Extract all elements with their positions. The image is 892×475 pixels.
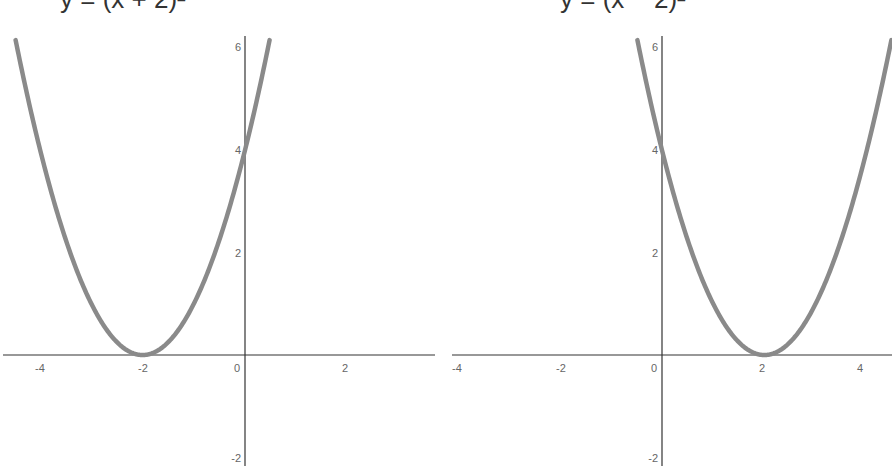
left-x-tick-label: -4 [35,362,45,374]
right-parabola-curve [637,40,891,355]
right-origin-label: 0 [651,362,657,374]
right-x-tick-label: -4 [452,362,462,374]
right-x-tick-label: 4 [857,362,863,374]
left-y-tick-label: 2 [235,247,241,259]
left-origin-label: 0 [234,362,240,374]
right-x-tick-label: -2 [556,362,566,374]
right-plot: -4 -2 0 2 4 6 4 2 -2 [452,36,892,466]
left-parabola-curve [16,40,270,355]
plots-canvas: -4 -2 0 2 6 4 2 -2 -4 -2 0 2 4 6 4 2 -2 [0,0,892,475]
left-x-tick-label: 2 [342,362,348,374]
right-y-tick-label: 4 [652,144,658,156]
left-x-tick-label: -2 [138,362,148,374]
left-y-tick-label: 4 [235,144,241,156]
right-y-tick-label: 2 [652,247,658,259]
left-y-tick-label: 6 [235,41,241,53]
left-plot: -4 -2 0 2 6 4 2 -2 [3,36,435,466]
right-y-tick-label: 6 [652,41,658,53]
right-y-tick-label: -2 [648,452,658,464]
right-x-tick-label: 2 [759,362,765,374]
left-y-tick-label: -2 [231,452,241,464]
